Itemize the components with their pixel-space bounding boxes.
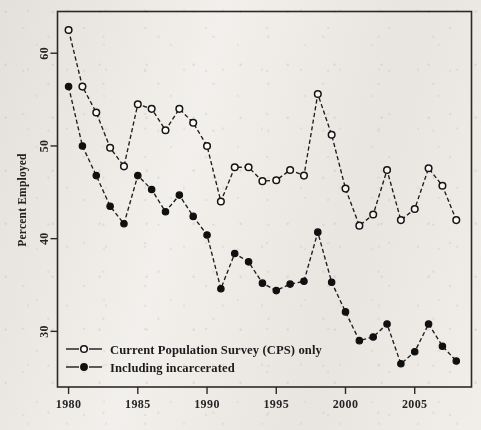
x-tick-label: 2000 (333, 397, 359, 411)
data-point-filled-circle (190, 213, 196, 219)
y-axis-title: Percent Employed (16, 153, 29, 247)
data-point-filled-circle (245, 259, 251, 265)
y-tick-label: 60 (37, 47, 51, 60)
data-point-open-circle (259, 178, 266, 185)
data-point-filled-circle (162, 209, 168, 215)
data-point-filled-circle (328, 279, 334, 285)
data-point-open-circle (93, 109, 100, 116)
data-point-filled-circle (453, 358, 459, 364)
data-point-open-circle (411, 206, 418, 213)
data-point-filled-circle (259, 280, 265, 286)
data-point-open-circle (176, 106, 183, 113)
data-point-filled-circle (232, 250, 238, 256)
legend-label-including-incarcerated: Including incarcerated (110, 361, 235, 375)
data-point-filled-circle (356, 337, 362, 343)
series-cps-only-line (69, 30, 457, 226)
data-point-open-circle (439, 183, 446, 190)
series-including-incarcerated-markers (65, 83, 459, 367)
data-point-filled-circle (412, 349, 418, 355)
plot-frame (58, 12, 472, 388)
data-point-filled-circle (273, 287, 279, 293)
data-point-open-circle (231, 164, 238, 171)
series-cps-only-markers (65, 27, 459, 229)
data-point-filled-circle (65, 83, 71, 89)
data-point-filled-circle (370, 334, 376, 340)
legend-entry-including-incarcerated: Including incarcerated (66, 361, 235, 375)
data-point-filled-circle (384, 321, 390, 327)
data-point-filled-circle (425, 321, 431, 327)
legend-entry-cps-only: Current Population Survey (CPS) only (66, 343, 322, 357)
data-point-open-circle (453, 217, 460, 224)
data-point-filled-circle (107, 203, 113, 209)
data-point-open-circle (398, 217, 405, 224)
data-point-open-circle (370, 211, 377, 218)
data-point-open-circle (425, 165, 432, 172)
x-tick-label: 1985 (125, 397, 151, 411)
data-point-filled-circle (301, 278, 307, 284)
data-point-open-circle (135, 101, 142, 108)
data-point-filled-circle (79, 143, 85, 149)
data-point-filled-circle (342, 309, 348, 315)
chart-legend: Current Population Survey (CPS) only Inc… (66, 343, 322, 375)
data-point-open-circle (148, 106, 155, 113)
data-point-filled-circle (176, 192, 182, 198)
x-tick-label: 1980 (56, 397, 82, 411)
data-point-filled-circle (398, 361, 404, 367)
filled-circle-icon (81, 364, 88, 371)
data-point-open-circle (301, 172, 308, 179)
data-point-open-circle (121, 163, 128, 170)
data-point-open-circle (190, 119, 197, 126)
y-tick-label: 30 (37, 325, 51, 338)
data-point-open-circle (245, 164, 252, 171)
employment-rate-line-chart: 30405060 198019851990199520002005 Percen… (0, 0, 481, 430)
data-point-filled-circle (148, 186, 154, 192)
data-point-open-circle (315, 91, 322, 98)
data-point-open-circle (342, 185, 349, 192)
legend-label-cps-only: Current Population Survey (CPS) only (110, 343, 322, 357)
data-point-filled-circle (135, 172, 141, 178)
data-point-open-circle (162, 127, 169, 134)
data-point-filled-circle (315, 229, 321, 235)
data-point-open-circle (204, 143, 211, 150)
y-tick-label: 40 (37, 232, 51, 245)
data-point-filled-circle (439, 343, 445, 349)
x-tick-label: 1990 (194, 397, 220, 411)
chart-canvas: 30405060 198019851990199520002005 Percen… (0, 0, 481, 430)
data-point-open-circle (328, 132, 335, 139)
data-point-open-circle (287, 167, 294, 174)
data-point-filled-circle (287, 281, 293, 287)
y-tick-label: 50 (37, 140, 51, 153)
data-point-open-circle (79, 83, 86, 90)
data-point-filled-circle (93, 172, 99, 178)
data-point-filled-circle (121, 221, 127, 227)
data-point-open-circle (273, 177, 280, 184)
data-point-open-circle (107, 144, 114, 151)
data-point-open-circle (65, 27, 72, 34)
x-tick-label: 1995 (263, 397, 289, 411)
x-tick-label: 2005 (402, 397, 428, 411)
x-axis-ticks: 198019851990199520002005 (56, 387, 428, 411)
data-point-open-circle (356, 222, 363, 229)
data-point-filled-circle (218, 286, 224, 292)
data-point-open-circle (218, 198, 225, 205)
y-axis-ticks: 30405060 (37, 47, 57, 338)
data-point-open-circle (384, 167, 391, 174)
open-circle-icon (81, 346, 88, 353)
data-point-filled-circle (204, 232, 210, 238)
